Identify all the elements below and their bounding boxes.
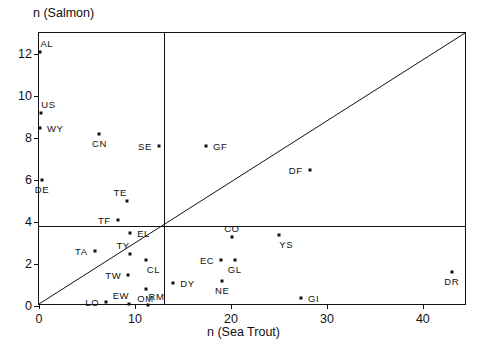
y-tick-mark bbox=[34, 180, 39, 181]
data-point-label: GF bbox=[213, 141, 227, 152]
data-point-label: GL bbox=[228, 264, 242, 275]
y-tick-label: 10 bbox=[18, 89, 32, 103]
data-point bbox=[40, 179, 43, 182]
data-point bbox=[98, 132, 101, 135]
data-point bbox=[220, 258, 223, 261]
data-point bbox=[144, 288, 147, 291]
data-point bbox=[129, 252, 132, 255]
y-tick-label: 0 bbox=[25, 299, 32, 313]
x-tick-mark bbox=[39, 304, 40, 309]
data-point bbox=[105, 300, 108, 303]
data-point-label: GI bbox=[308, 292, 319, 303]
data-point bbox=[299, 296, 302, 299]
x-tick-label: 20 bbox=[224, 312, 238, 326]
data-point-label: TW bbox=[105, 269, 121, 280]
vertical-reference-line bbox=[164, 33, 165, 304]
y-tick-label: 8 bbox=[25, 131, 32, 145]
y-tick-mark bbox=[34, 96, 39, 97]
y-axis-title: n (Salmon) bbox=[33, 6, 94, 20]
x-tick-mark bbox=[423, 304, 424, 309]
y-tick-label: 2 bbox=[25, 257, 32, 271]
y-tick-label: 12 bbox=[18, 47, 32, 61]
data-point-label: TA bbox=[75, 246, 88, 257]
data-point-label: DE bbox=[35, 184, 49, 195]
data-point bbox=[450, 271, 453, 274]
data-point bbox=[127, 273, 130, 276]
data-point bbox=[233, 258, 236, 261]
data-point-label: YS bbox=[279, 238, 293, 249]
data-point bbox=[93, 250, 96, 253]
data-point-label: US bbox=[41, 99, 55, 110]
data-point-label: AL bbox=[40, 38, 53, 49]
data-point-label: CN bbox=[92, 138, 107, 149]
data-point bbox=[129, 231, 132, 234]
y-tick-mark bbox=[34, 138, 39, 139]
data-point bbox=[221, 279, 224, 282]
x-axis-title: n (Sea Trout) bbox=[0, 325, 487, 339]
data-point bbox=[38, 126, 41, 129]
plot-area: 024681012 010203040 ALUSWYCNSEGFDEDFTETF… bbox=[38, 32, 466, 305]
data-point-label: TY bbox=[116, 240, 129, 251]
data-point bbox=[172, 281, 175, 284]
x-tick-mark bbox=[231, 304, 232, 309]
data-point-label: CL bbox=[147, 264, 160, 275]
data-point bbox=[126, 200, 129, 203]
data-point-label: EW bbox=[113, 290, 130, 301]
scatter-plot-figure: n (Salmon) 024681012 010203040 ALUSWYCNS… bbox=[0, 0, 487, 349]
x-tick-mark bbox=[327, 304, 328, 309]
data-point-label: DY bbox=[180, 277, 194, 288]
data-point bbox=[39, 111, 42, 114]
data-point bbox=[147, 303, 150, 306]
y-tick-mark bbox=[34, 54, 39, 55]
y-tick-mark bbox=[34, 264, 39, 265]
x-tick-label: 40 bbox=[416, 312, 430, 326]
y-tick-label: 6 bbox=[25, 173, 32, 187]
data-point bbox=[204, 145, 207, 148]
data-point bbox=[157, 145, 160, 148]
data-point-label: DF bbox=[289, 164, 303, 175]
data-point-label: SE bbox=[138, 141, 152, 152]
x-tick-label: 30 bbox=[320, 312, 334, 326]
data-point bbox=[38, 50, 41, 53]
data-point-label: TF bbox=[98, 214, 111, 225]
data-point-label: EC bbox=[200, 254, 214, 265]
data-point-label: LO bbox=[85, 296, 99, 307]
data-point-label: TE bbox=[114, 187, 127, 198]
x-tick-mark bbox=[135, 304, 136, 309]
data-point-label: EL bbox=[137, 227, 150, 238]
data-point bbox=[145, 258, 148, 261]
data-point bbox=[308, 168, 311, 171]
data-point-label: NE bbox=[215, 285, 229, 296]
data-point bbox=[128, 302, 131, 305]
y-tick-mark bbox=[34, 222, 39, 223]
data-point bbox=[116, 218, 119, 221]
x-tick-label: 0 bbox=[36, 312, 43, 326]
data-point bbox=[277, 233, 280, 236]
data-point bbox=[230, 235, 233, 238]
data-point-label: RM bbox=[148, 291, 164, 302]
identity-diagonal-line bbox=[39, 33, 465, 304]
data-point-label: WY bbox=[47, 122, 64, 133]
data-point-label: DR bbox=[444, 276, 459, 287]
y-tick-label: 4 bbox=[25, 215, 32, 229]
horizontal-reference-line bbox=[39, 226, 465, 227]
data-point-label: CO bbox=[224, 223, 239, 234]
x-tick-label: 10 bbox=[128, 312, 142, 326]
